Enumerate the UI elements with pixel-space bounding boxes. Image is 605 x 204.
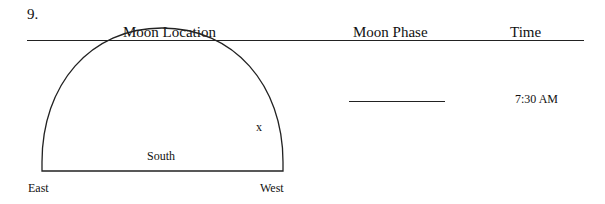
moon-phase-answer-blank[interactable] [349, 101, 445, 102]
south-label: South [147, 149, 175, 164]
east-label: East [28, 181, 49, 196]
moon-position-marker: x [256, 120, 262, 135]
west-label: West [260, 181, 284, 196]
time-value: 7:30 AM [515, 92, 558, 107]
